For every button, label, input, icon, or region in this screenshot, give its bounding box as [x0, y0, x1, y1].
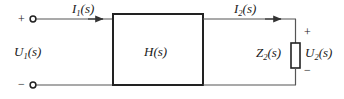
block-label-symbol: H	[144, 44, 153, 59]
input-negative-polarity-sign: −	[18, 78, 25, 90]
input-current-arg: (s)	[81, 1, 95, 16]
circuit-diagram-canvas: H(s) I1(s) I2(s) U1(s) Z2(s) U2(s) + − +…	[0, 0, 344, 99]
output-voltage-subscript: 2	[314, 52, 318, 62]
input-voltage-subscript: 1	[23, 51, 27, 61]
input-terminal-negative-node	[30, 82, 36, 88]
output-negative-polarity-sign: −	[304, 64, 311, 76]
load-impedance-arg: (s)	[267, 45, 281, 60]
block-label-h-of-s: H(s)	[144, 45, 167, 58]
input-positive-polarity-sign: +	[18, 13, 25, 25]
output-current-arg: (s)	[243, 1, 257, 16]
output-current-subscript: 2	[238, 8, 242, 18]
output-voltage-arg: (s)	[319, 45, 333, 60]
load-impedance-label: Z2(s)	[256, 46, 281, 59]
load-impedance-element	[291, 43, 300, 68]
input-terminal-positive-node	[30, 16, 36, 22]
input-current-label: I1(s)	[72, 2, 94, 15]
load-impedance-subscript: 2	[263, 52, 267, 62]
output-voltage-label: U2(s)	[305, 46, 332, 59]
output-voltage-symbol: U	[305, 45, 314, 60]
output-current-label: I2(s)	[234, 2, 256, 15]
input-voltage-symbol: U	[14, 44, 23, 59]
input-current-subscript: 1	[76, 8, 80, 18]
block-label-arg: (s)	[153, 44, 167, 59]
input-voltage-arg: (s)	[28, 44, 42, 59]
input-voltage-label: U1(s)	[14, 45, 41, 58]
circuit-schematic-svg	[0, 0, 344, 99]
output-positive-polarity-sign: +	[304, 26, 311, 38]
